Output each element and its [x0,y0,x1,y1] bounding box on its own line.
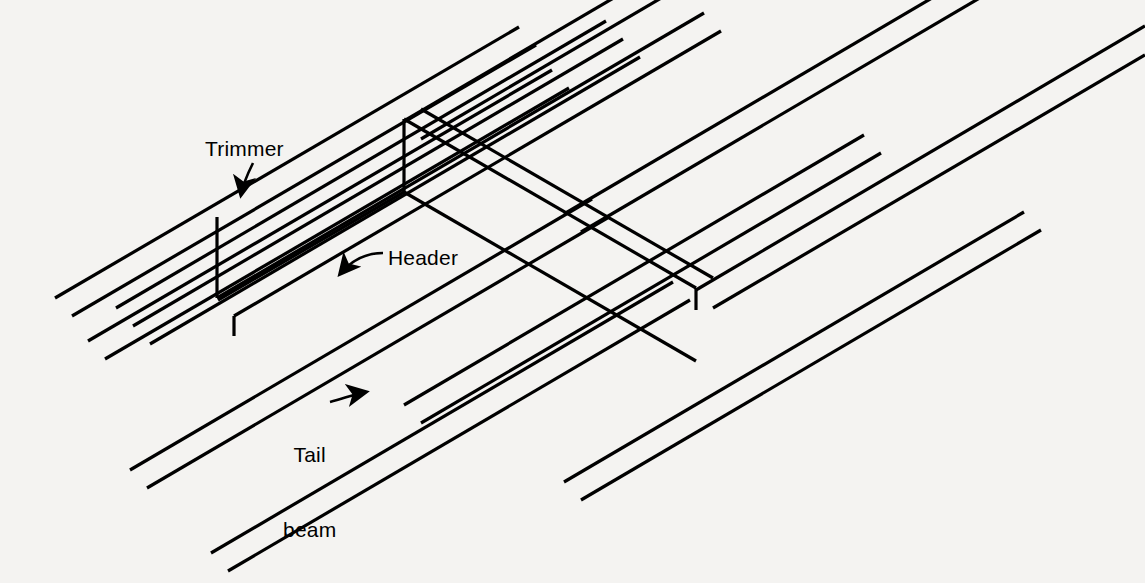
label-tail-beam-line1: Tail [283,442,336,467]
framing-isometric-drawing [0,0,1145,583]
figure-canvas: Trimmer Header Tail beam [0,0,1145,583]
label-tail-beam: Tail beam [283,392,336,583]
label-trimmer: Trimmer [205,136,284,161]
label-header: Header [388,245,458,270]
label-tail-beam-line2: beam [283,517,336,542]
